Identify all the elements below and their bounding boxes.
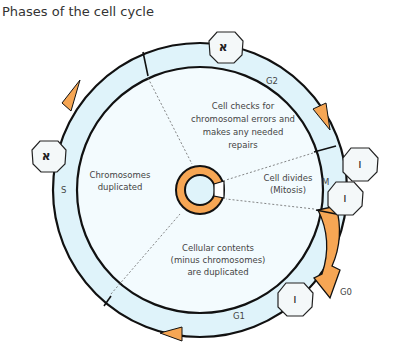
svg-text:(minus chromosomes): (minus chromosomes) xyxy=(171,255,266,265)
svg-text:Cell divides: Cell divides xyxy=(264,173,313,183)
cell-s: א xyxy=(32,141,66,172)
cell-g2: א xyxy=(209,32,243,63)
svg-text:א: א xyxy=(42,149,51,163)
svg-text:ו: ו xyxy=(358,157,361,171)
svg-text:ו: ו xyxy=(343,191,346,205)
phase-label-g0: G0 xyxy=(340,287,352,297)
direction-arrow-s xyxy=(62,80,80,111)
phase-label-m: M xyxy=(322,177,329,187)
svg-text:Chromosomes: Chromosomes xyxy=(90,170,151,180)
svg-text:duplicated: duplicated xyxy=(98,182,143,192)
svg-text:chromosomal errors and: chromosomal errors and xyxy=(191,114,295,124)
svg-text:(Mitosis): (Mitosis) xyxy=(270,185,306,195)
cell-cycle-diagram: G2 S M G1 G0 Cell checks for chromosomal… xyxy=(0,0,397,360)
svg-text:ו: ו xyxy=(293,292,296,306)
phase-label-s: S xyxy=(61,185,66,195)
phase-label-g2: G2 xyxy=(266,76,278,86)
phase-label-g1: G1 xyxy=(233,311,245,321)
svg-text:makes any needed: makes any needed xyxy=(203,127,284,137)
cell-g1: ו xyxy=(278,283,313,316)
svg-text:Cell checks for: Cell checks for xyxy=(212,101,275,111)
svg-text:repairs: repairs xyxy=(228,140,258,150)
nucleus-core xyxy=(185,175,215,205)
svg-text:are duplicated: are duplicated xyxy=(187,267,248,277)
nucleus-gap xyxy=(214,181,224,198)
cell-m-lower: ו xyxy=(328,182,363,215)
svg-text:Cellular contents: Cellular contents xyxy=(182,243,255,253)
svg-text:א: א xyxy=(219,40,228,54)
cell-m-upper: ו xyxy=(343,148,378,181)
